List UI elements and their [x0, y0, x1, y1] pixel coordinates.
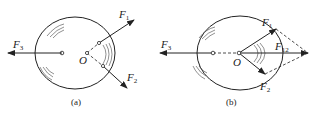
- point-f2-a: [101, 64, 104, 67]
- caption-a: (a): [71, 97, 81, 107]
- diagram-a: F1 F2 F3 O (a): [8, 8, 138, 107]
- label-f1-b: F1: [261, 16, 273, 30]
- force-f1-b: [239, 29, 276, 53]
- line-of-action-f1-a: [87, 43, 99, 53]
- center-mark-b: [211, 51, 215, 55]
- label-f3-b: F3: [160, 38, 172, 52]
- figure-canvas: F1 F2 F3 O (a) F1 F2 F3 F12 O (b): [0, 0, 316, 119]
- hatching-a: [40, 24, 112, 80]
- force-f2-a: [103, 66, 127, 88]
- label-f1-a: F1: [118, 8, 130, 22]
- label-f12-b: F12: [274, 40, 289, 54]
- diagram-b: F1 F2 F3 F12 O (b): [160, 16, 308, 107]
- label-f3-a: F3: [12, 38, 24, 52]
- force-diagrams: F1 F2 F3 O (a) F1 F2 F3 F12 O (b): [0, 0, 316, 119]
- force-f1-a: [99, 20, 134, 43]
- line-of-action-f2-a: [87, 53, 103, 66]
- point-f1-a: [97, 41, 100, 44]
- label-o-b: O: [233, 56, 241, 68]
- caption-b: (b): [226, 97, 237, 107]
- label-f2-b: F2: [259, 80, 271, 94]
- point-o-b: [237, 51, 241, 55]
- label-o-a: O: [79, 54, 87, 66]
- label-f2-a: F2: [126, 71, 138, 85]
- parallelogram-side-2: [265, 53, 308, 74]
